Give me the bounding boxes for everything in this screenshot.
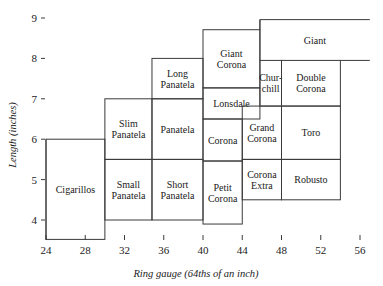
region-label-cigarillos: Cigarillos (56, 184, 96, 195)
cigar-size-regions: CigarillosSlimPanatelaSmallPanatelaPanat… (46, 20, 370, 240)
y-tick-label-6: 6 (32, 133, 38, 145)
region-label-grand-corona: GrandCorona (247, 122, 277, 144)
x-axis: 242832364044485256 (41, 235, 367, 256)
region-label-petit-corona: PetitCorona (208, 182, 238, 204)
x-tick-label-44: 44 (237, 244, 249, 256)
x-tick-label-24: 24 (41, 244, 53, 256)
region-label-slim-panatela: SlimPanatela (111, 118, 145, 140)
y-axis-title: Length (inches) (7, 102, 19, 169)
cigar-size-chart: 456789 242832364044485256 CigarillosSlim… (0, 0, 383, 286)
region-label-robusto: Robusto (294, 174, 327, 185)
region-label-toro: Toro (302, 127, 321, 138)
x-tick-label-48: 48 (276, 244, 288, 256)
x-tick-label-32: 32 (119, 244, 130, 256)
region-label-corona: Corona (208, 135, 238, 146)
y-tick-label-8: 8 (32, 52, 38, 64)
region-label-churchill: Chur-chill (259, 72, 282, 94)
x-tick-label-40: 40 (198, 244, 210, 256)
x-tick-label-56: 56 (355, 244, 367, 256)
x-tick-label-52: 52 (315, 244, 326, 256)
y-axis: 456789 (32, 12, 47, 239)
region-label-corona-extra: CoronaExtra (247, 169, 277, 191)
x-axis-title: Ring gauge (64ths of an inch) (132, 268, 259, 280)
region-label-giant-corona: GiantCorona (217, 48, 247, 70)
region-label-small-panatela: SmallPanatela (111, 179, 145, 201)
y-tick-label-9: 9 (32, 12, 38, 24)
y-tick-label-7: 7 (32, 93, 38, 105)
x-tick-label-36: 36 (158, 244, 170, 256)
region-label-long-panatela: LongPanatela (161, 68, 195, 90)
region-label-lonsdale: Lonsdale (213, 98, 250, 109)
region-label-short-panatela: ShortPanatela (161, 179, 195, 201)
chart-canvas: 456789 242832364044485256 CigarillosSlim… (0, 0, 383, 286)
x-tick-label-28: 28 (80, 244, 92, 256)
region-label-giant: Giant (304, 35, 326, 46)
y-tick-label-5: 5 (32, 174, 38, 186)
region-label-panatela: Panatela (161, 124, 195, 135)
region-label-double-corona: DoubleCorona (296, 72, 326, 94)
y-tick-label-4: 4 (32, 214, 38, 226)
